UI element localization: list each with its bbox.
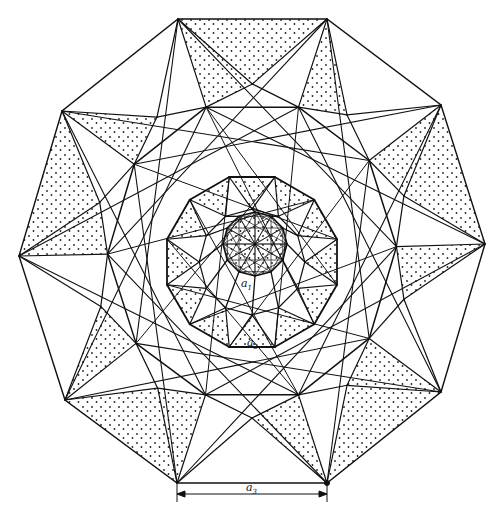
- tiling-diagram: a1 a2 a3: [0, 0, 501, 515]
- label-a1: a1: [241, 278, 252, 292]
- diagram-canvas: [0, 0, 501, 515]
- label-a3: a3: [246, 482, 257, 496]
- label-a2: a2: [247, 337, 258, 351]
